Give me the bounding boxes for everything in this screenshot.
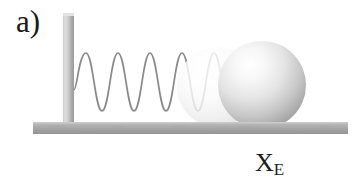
ground (33, 122, 348, 134)
equilibrium-label-base: X (255, 148, 274, 177)
physics-diagram-panel-a: a) XE (0, 0, 358, 189)
sphere-body (218, 41, 306, 129)
panel-label: a) (16, 6, 40, 37)
equilibrium-position-label: XE (255, 150, 284, 176)
wall-post (63, 13, 74, 126)
diagram-canvas (0, 0, 358, 189)
equilibrium-label-subscript: E (274, 160, 284, 179)
